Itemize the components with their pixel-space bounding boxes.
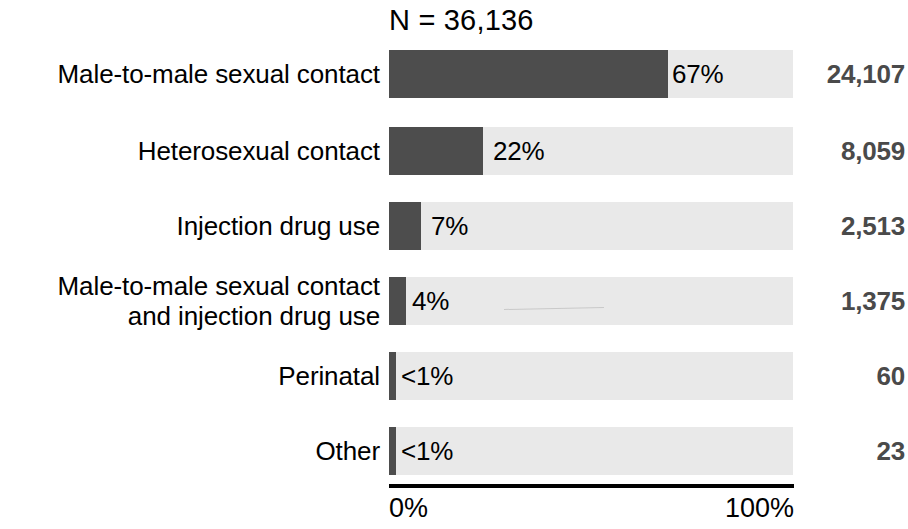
bar-fill	[389, 127, 483, 175]
chart-row: Other <1% 23	[0, 427, 908, 475]
bar-percent-label: 4%	[412, 287, 449, 315]
chart-row: Male-to-male sexual contact 67% 24,107	[0, 50, 908, 98]
chart-row: Injection drug use 7% 2,513	[0, 202, 908, 250]
row-label-other: Other	[0, 436, 380, 466]
bar-track: 4%	[389, 277, 793, 325]
bar-percent-label: <1%	[401, 437, 453, 465]
row-count-value: 8,059	[841, 137, 905, 165]
chart-row: Perinatal <1% 60	[0, 352, 908, 400]
row-count-value: 60	[876, 362, 905, 390]
bar-fill	[389, 427, 396, 475]
row-count-value: 2,513	[841, 212, 905, 240]
bar-fill	[389, 50, 668, 98]
bar-chart: N = 36,136 Male-to-male sexual contact 6…	[0, 0, 908, 529]
chart-row: Male-to-male sexual contact and injectio…	[0, 277, 908, 325]
chart-row: Heterosexual contact 22% 8,059	[0, 127, 908, 175]
scan-artifact-line	[504, 307, 604, 310]
row-label-male-to-male-and-injection-drug-use: Male-to-male sexual contact and injectio…	[0, 271, 380, 331]
row-count-value: 24,107	[827, 60, 905, 88]
sample-size-caption: N = 36,136	[389, 2, 534, 38]
row-count-value: 23	[876, 437, 905, 465]
bar-percent-label: 67%	[672, 60, 723, 88]
row-label-heterosexual-contact: Heterosexual contact	[0, 136, 380, 166]
bar-track: 7%	[389, 202, 793, 250]
bar-fill	[389, 352, 396, 400]
row-label-perinatal: Perinatal	[0, 361, 380, 391]
row-label-male-to-male-sexual-contact: Male-to-male sexual contact	[0, 59, 380, 89]
bar-fill	[389, 277, 406, 325]
row-label-injection-drug-use: Injection drug use	[0, 211, 380, 241]
bar-percent-label: 22%	[493, 137, 544, 165]
bar-track: <1%	[389, 352, 793, 400]
bar-track: <1%	[389, 427, 793, 475]
bar-percent-label: 7%	[431, 212, 468, 240]
bar-track: 22%	[389, 127, 793, 175]
bar-percent-label: <1%	[401, 362, 453, 390]
bar-fill	[389, 202, 421, 250]
bar-track: 67%	[389, 50, 793, 98]
row-count-value: 1,375	[841, 287, 905, 315]
x-axis-tick-100: 100%	[389, 492, 794, 524]
x-axis-line	[389, 484, 794, 488]
